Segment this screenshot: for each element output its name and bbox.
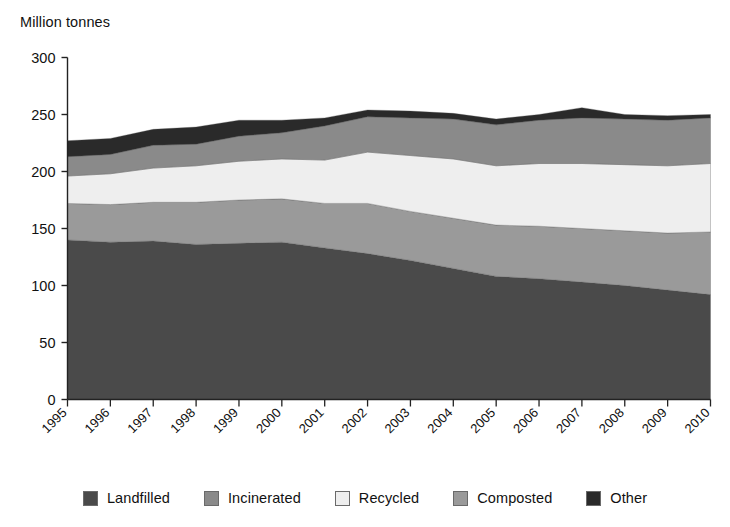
- y-tick-label: 200: [31, 164, 55, 180]
- legend-swatch-icon: [335, 491, 350, 506]
- legend-item-incinerated[interactable]: Incinerated: [204, 490, 301, 506]
- legend-item-landfilled[interactable]: Landfilled: [83, 490, 170, 506]
- legend-item-other[interactable]: Other: [586, 490, 647, 506]
- y-tick-label: 50: [39, 335, 55, 351]
- legend-swatch-icon: [204, 491, 219, 506]
- x-tick-label: 2007: [553, 405, 584, 436]
- stacked-area-plot: 0501001502002503001995199619971998199920…: [0, 0, 730, 470]
- y-tick-label: 300: [31, 50, 55, 66]
- legend-item-label: Incinerated: [228, 490, 301, 506]
- x-tick-label: 1996: [81, 405, 112, 436]
- legend-item-label: Recycled: [359, 490, 419, 506]
- x-tick-label: 2003: [381, 405, 412, 436]
- legend-item-composted[interactable]: Composted: [453, 490, 552, 506]
- legend-item-label: Other: [610, 490, 647, 506]
- x-tick-label: 2000: [253, 405, 284, 436]
- y-tick-label: 0: [47, 392, 55, 408]
- legend-swatch-icon: [83, 491, 98, 506]
- x-tick-label: 1995: [39, 405, 70, 436]
- x-tick-label: 1997: [124, 405, 155, 436]
- x-tick-label: 1999: [210, 405, 241, 436]
- x-tick-label: 2009: [639, 405, 670, 436]
- x-tick-label: 2008: [596, 405, 627, 436]
- x-tick-label: 2010: [682, 405, 713, 436]
- x-tick-label: 2004: [424, 405, 455, 436]
- x-tick-label: 1998: [167, 405, 198, 436]
- legend-item-label: Composted: [477, 490, 552, 506]
- x-tick-label: 2001: [296, 405, 327, 436]
- plot-area: 0501001502002503001995199619971998199920…: [0, 0, 730, 470]
- chart-container: Million tonnes 0501001502002503001995199…: [0, 0, 730, 527]
- x-tick-label: 2006: [510, 405, 541, 436]
- y-tick-label: 150: [31, 221, 55, 237]
- y-tick-label: 250: [31, 107, 55, 123]
- legend-item-label: Landfilled: [107, 490, 170, 506]
- legend-item-recycled[interactable]: Recycled: [335, 490, 419, 506]
- x-tick-label: 2002: [339, 405, 370, 436]
- chart-legend: LandfilledIncineratedRecycledCompostedOt…: [0, 478, 730, 518]
- legend-swatch-icon: [453, 491, 468, 506]
- y-tick-label: 100: [31, 278, 55, 294]
- x-tick-label: 2005: [467, 405, 498, 436]
- legend-swatch-icon: [586, 491, 601, 506]
